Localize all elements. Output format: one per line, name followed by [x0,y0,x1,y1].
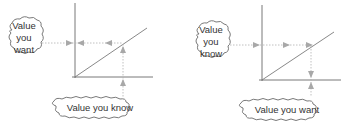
up-arrow-icon [120,46,126,53]
right-arrow-icon [66,40,73,46]
up-arrow-icon [120,79,126,86]
left-side-cloud: Value you want [9,17,43,55]
left-bottom-cloud: Value you know [52,97,133,119]
left-bottom-cloud-label: Value you know [67,102,134,113]
right-bottom-cloud: Value you want [239,99,319,121]
left-side-cloud-line-1: Value [12,20,36,31]
right-side-cloud-line-2: you [203,36,218,47]
right-arrow-icon [253,42,260,48]
right-trend-line [262,32,334,80]
right-side-cloud-line-3: know [200,48,222,59]
right-side-cloud: Value you know [196,21,230,59]
left-diagram: Value you want Value you know [9,3,153,119]
up-arrow-icon [308,82,314,89]
left-side-cloud-line-3: want [13,44,34,55]
right-side-cloud-line-1: Value [199,24,223,35]
right-diagram: Value you know Value you want [196,5,341,121]
left-trend-line [75,28,147,77]
diagram-canvas: Value you want Value you know Value you [0,0,351,131]
right-arrow-icon [283,42,290,48]
down-arrow-icon [308,71,314,78]
left-arrow-icon [77,40,84,46]
right-bottom-cloud-label: Value you want [255,104,320,115]
left-arrow-icon [105,40,112,46]
left-side-cloud-line-2: you [16,32,31,43]
